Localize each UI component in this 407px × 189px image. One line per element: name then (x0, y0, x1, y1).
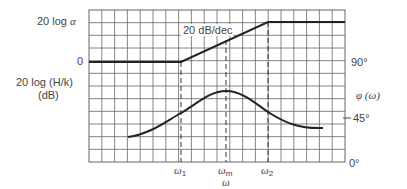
left-axis-title-line1: 20 log (H/k) (16, 76, 73, 88)
x-marker-omega1: ω1 (174, 164, 186, 178)
right-axis-title: φ (ω) (356, 89, 380, 101)
label-20-log-alpha: 20 log α (37, 15, 76, 27)
right-tick-0: 0° (349, 157, 360, 169)
x-marker-omega2: ω2 (261, 164, 273, 178)
label-zero-db: 0 (77, 55, 83, 67)
slope-annotation: 20 dB/dec (183, 24, 233, 36)
x-axis-title: ω (222, 176, 230, 188)
left-axis-title-line2: (dB) (38, 89, 59, 101)
right-tick-45: 45° (353, 112, 370, 124)
right-tick-90: 90° (351, 56, 368, 68)
